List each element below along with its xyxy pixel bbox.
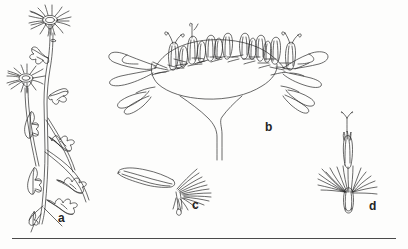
floret (210, 33, 243, 62)
floret (198, 41, 206, 62)
figure-label-a: a (58, 212, 65, 224)
illustration-plate: a b c d (0, 0, 408, 249)
stems (25, 33, 89, 232)
figure-b-receptacle (109, 23, 328, 160)
figure-label-b: b (265, 121, 272, 133)
peduncle (180, 96, 242, 160)
figure-label-c: c (192, 199, 199, 211)
caption-divider-rule (12, 238, 396, 239)
flower-head-lower (7, 64, 45, 93)
corolla-d (343, 136, 352, 169)
pappus-bristles-d (318, 166, 377, 194)
involucral-bracts-left (109, 52, 156, 114)
figure-label-d: d (369, 200, 376, 212)
floret (174, 23, 208, 66)
figure-d-disc-floret (318, 112, 377, 213)
figure-a-habit (7, 5, 89, 232)
florets-row (152, 23, 309, 76)
